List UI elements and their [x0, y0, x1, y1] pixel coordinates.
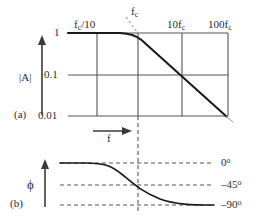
- phase-guides: [60, 163, 214, 205]
- bode-plot-figure: 1 0.1 0.01 fc/10 fc 10fc 100fc |A| f (a)…: [0, 0, 267, 221]
- phase-minus45deg-value: –45: [221, 178, 238, 190]
- phase-axis-label: ϕ: [27, 178, 34, 191]
- fc-callout-leader: [126, 17, 137, 32]
- xtick-100fc-sub: c: [228, 23, 232, 32]
- frequency-axis-arrow: [93, 127, 132, 135]
- frequency-axis-arrowhead: [122, 127, 132, 135]
- xtick-label-fc: fc: [131, 6, 138, 19]
- xtick-10fc-lead: 10: [167, 18, 178, 30]
- phase-label-minus45deg: –45o: [221, 179, 241, 190]
- panel-b-id: (b): [10, 198, 23, 209]
- phase-minus45deg-unit: o: [238, 178, 242, 187]
- phase-label-minus90deg: –90o: [221, 199, 241, 210]
- phase-response-curve: [60, 163, 214, 205]
- phase-axis-arrowhead: [41, 159, 49, 169]
- panel-a-id: (a): [14, 109, 26, 120]
- phase-minus90deg-value: –90: [221, 198, 238, 210]
- phase-0deg-unit: o: [227, 156, 231, 165]
- xtick-label-fc-over-10: fc/10: [74, 19, 95, 32]
- phase-label-0deg: 0o: [221, 157, 230, 168]
- ytick-label-0.1: 0.1: [44, 69, 58, 80]
- xtick-label-10fc: 10fc: [167, 19, 185, 32]
- curve-tail-mark: [226, 116, 233, 122]
- ytick-label-1: 1: [54, 27, 60, 38]
- phase-minus90deg-unit: o: [238, 198, 242, 207]
- xtick-fc-sub: c: [135, 10, 139, 19]
- frequency-axis-label: f: [107, 133, 111, 144]
- ytick-label-0.01: 0.01: [38, 110, 57, 121]
- magnitude-axis-arrowhead: [38, 35, 46, 45]
- magnitude-axis-label: |A|: [19, 72, 31, 83]
- xtick-label-100fc: 100fc: [208, 19, 232, 32]
- xtick-100fc-lead: 100: [208, 18, 225, 30]
- phase-axis-arrow: [41, 159, 49, 207]
- xtick-fc-over-10-tail: /10: [81, 18, 95, 30]
- xtick-10fc-sub: c: [182, 23, 186, 32]
